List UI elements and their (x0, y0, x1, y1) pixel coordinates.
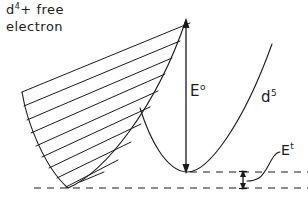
reference-lines-group (34, 172, 308, 188)
continuum-label-rest: + free (20, 2, 64, 17)
hatch-line (24, 41, 180, 106)
optical-transition-label-base: E (190, 82, 200, 100)
continuum-label-base: d (6, 2, 15, 17)
hatch-line (42, 107, 150, 157)
hatch-line (36, 91, 158, 146)
optical-transition-arrowhead-up (183, 18, 190, 28)
continuum-parabola-left-arm (22, 92, 68, 188)
optical-transition-label-superscript: o (200, 82, 206, 92)
hatch-line (66, 160, 118, 187)
optical-transition-arrow (183, 18, 190, 174)
thermal-barrier-label-base: E (281, 142, 290, 158)
ground-state-label-superscript: 5 (271, 88, 277, 98)
thermal-barrier-label: Et (281, 141, 294, 159)
ground-state-label: d5 (261, 88, 277, 107)
optical-transition-label: Eo (190, 82, 206, 101)
hatch-line (27, 58, 172, 120)
potential-energy-diagram: d4+ freeelectron Eo d5 Et (0, 0, 308, 197)
thermal-barrier-leader-line (247, 152, 280, 181)
continuum-label-line2: electron (6, 19, 63, 34)
hatch-line (31, 74, 165, 133)
thermal-barrier-arrow (239, 170, 247, 190)
continuum-band-label: d4+ freeelectron (6, 2, 64, 35)
continuum-parabola-group (22, 20, 190, 188)
thermal-barrier-label-superscript: t (290, 141, 294, 151)
ground-state-label-base: d (261, 88, 271, 106)
hatch-line (49, 124, 141, 168)
